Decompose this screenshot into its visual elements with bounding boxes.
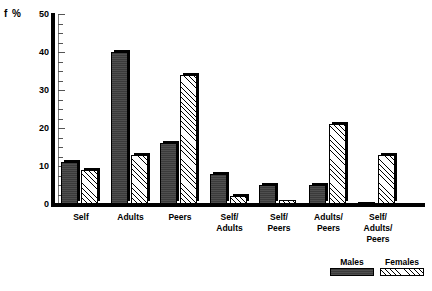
y-tick-label: 40 [27, 47, 49, 57]
bar-group [259, 14, 299, 204]
bar-females [81, 170, 98, 204]
bar-group [61, 14, 101, 204]
bar-males [210, 174, 227, 204]
bar-group [210, 14, 250, 204]
bar-group [358, 14, 398, 204]
y-tick-label: 10 [27, 161, 49, 171]
bar-chart: f % 01020304050 SelfAdultsPeersSelf/ Adu… [0, 0, 432, 291]
category-label: Self/ Adults/ Peers [345, 212, 411, 245]
y-tick-label: 0 [27, 199, 49, 209]
bar-females [329, 124, 346, 204]
bar-females [131, 155, 148, 204]
bar-males [309, 185, 326, 204]
y-tick-label: 20 [27, 123, 49, 133]
chart-legend: Males Females [330, 257, 426, 283]
legend-swatch-males [330, 268, 374, 276]
y-axis-title: f % [4, 8, 22, 19]
bar-group [160, 14, 200, 204]
legend-entry-females: Females [380, 257, 424, 276]
y-axis-line [51, 13, 55, 205]
plot-area [57, 14, 425, 204]
y-tick-label: 30 [27, 85, 49, 95]
bar-males [61, 162, 78, 204]
y-tick-label: 50 [27, 9, 49, 19]
bar-males [358, 202, 375, 204]
bar-group [111, 14, 151, 204]
legend-label-males: Males [330, 257, 374, 267]
bar-females [180, 75, 197, 204]
bar-males [259, 185, 276, 204]
legend-entry-males: Males [330, 257, 374, 276]
bar-group [309, 14, 349, 204]
legend-swatch-females [380, 268, 424, 276]
legend-label-females: Females [380, 257, 424, 267]
bar-females [378, 155, 395, 204]
bar-females [230, 196, 247, 204]
bar-females [279, 200, 296, 204]
bar-males [111, 52, 128, 204]
bar-males [160, 143, 177, 204]
